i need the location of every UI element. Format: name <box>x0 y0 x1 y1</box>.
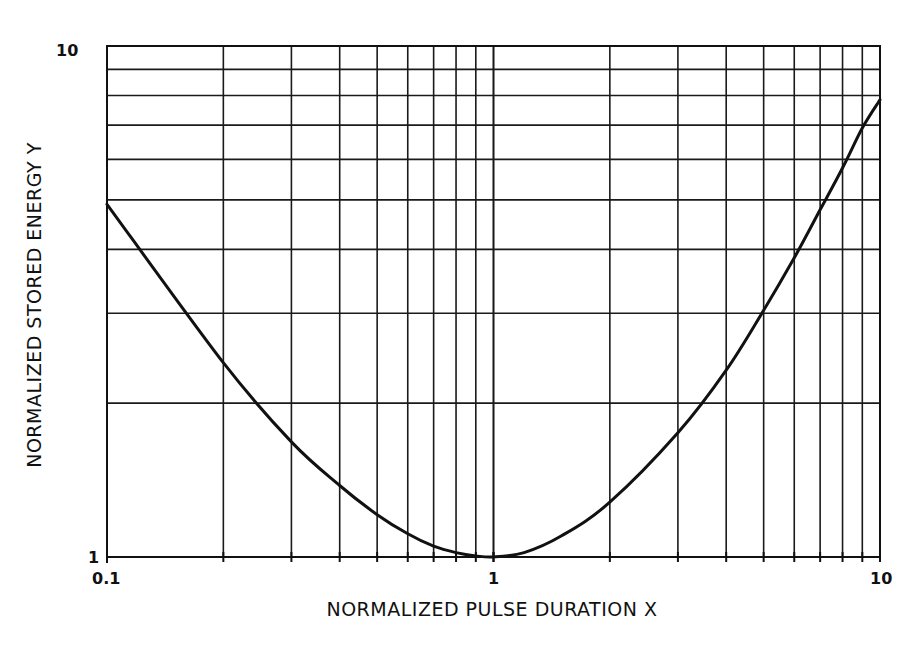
chart: 10 1 0.1 1 10 NORMALIZED PULSE DURATION … <box>0 0 923 651</box>
y-axis-title: NORMALIZED STORED ENERGY Y <box>23 142 45 468</box>
y-tick-label-1: 1 <box>88 548 99 567</box>
x-tick-label-0-1: 0.1 <box>92 569 120 588</box>
grid-lines <box>107 46 880 557</box>
x-tick-label-1: 1 <box>488 569 499 588</box>
y-tick-label-10: 10 <box>56 41 78 60</box>
x-tick-label-10: 10 <box>870 569 892 588</box>
x-axis-title: NORMALIZED PULSE DURATION X <box>326 598 657 620</box>
